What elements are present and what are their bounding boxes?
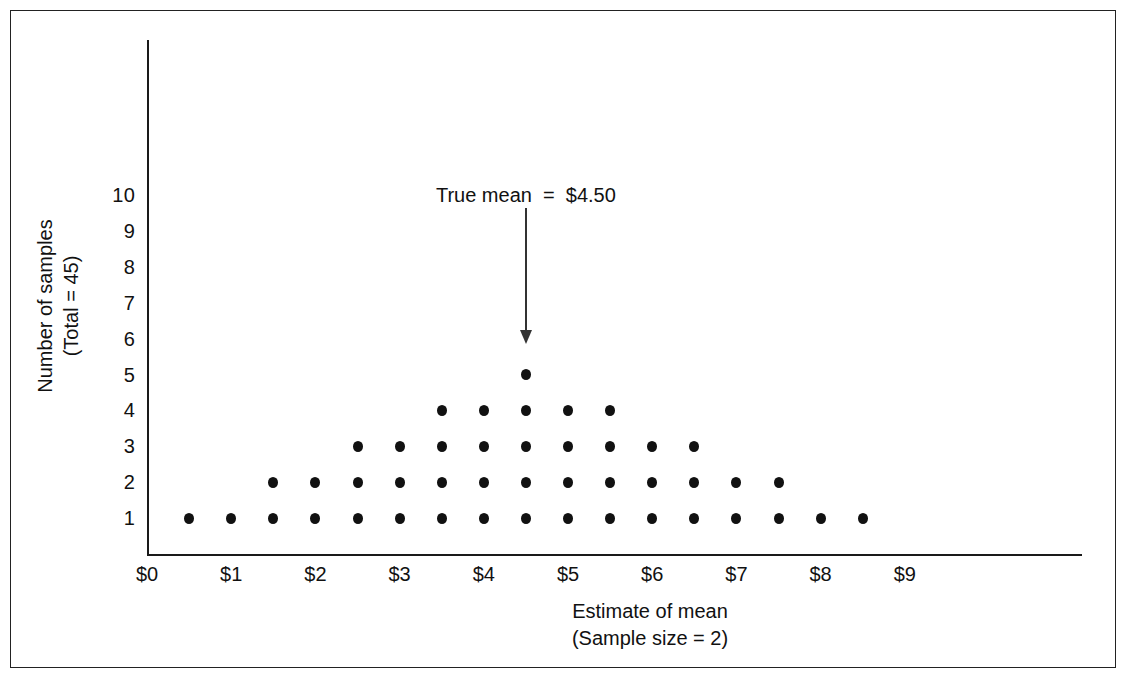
x-tick-label-dollar3: $3 [388, 562, 410, 586]
data-point [353, 513, 363, 524]
data-point [479, 405, 489, 416]
data-point [353, 441, 363, 452]
data-point [268, 513, 278, 524]
data-point [605, 477, 615, 488]
data-point [689, 441, 699, 452]
data-point [774, 477, 784, 488]
data-point [437, 513, 447, 524]
y-tick-label-4: 4 [93, 400, 135, 420]
data-point [184, 513, 194, 524]
y-axis-tick-labels: 12345678910 [90, 0, 135, 698]
data-point [395, 441, 405, 452]
data-point [437, 405, 447, 416]
y-tick-label-9: 9 [93, 221, 135, 241]
true-mean-arrow-shaft [525, 208, 527, 338]
data-point [395, 513, 405, 524]
data-point [437, 441, 447, 452]
data-point [689, 513, 699, 524]
y-tick-label-5: 5 [93, 365, 135, 385]
x-tick-label-dollar6: $6 [641, 562, 663, 586]
data-point [521, 405, 531, 416]
y-tick-label-8: 8 [93, 257, 135, 277]
x-tick-label-dollar8: $8 [809, 562, 831, 586]
y-axis-line [147, 40, 149, 556]
x-axis-title: Estimate of mean(Sample size = 2) [440, 598, 860, 652]
y-tick-label-10: 10 [93, 185, 135, 205]
x-axis-line [147, 554, 1082, 556]
data-point [353, 477, 363, 488]
y-tick-label-1: 1 [93, 508, 135, 528]
data-point [395, 477, 405, 488]
data-point [521, 513, 531, 524]
data-point [479, 513, 489, 524]
x-tick-label-dollar9: $9 [894, 562, 916, 586]
data-point [689, 477, 699, 488]
data-point [310, 513, 320, 524]
data-point [731, 477, 741, 488]
x-tick-label-dollar5: $5 [557, 562, 579, 586]
data-point [437, 477, 447, 488]
data-point [563, 477, 573, 488]
x-tick-label-dollar2: $2 [304, 562, 326, 586]
data-point [521, 441, 531, 452]
data-point [816, 513, 826, 524]
data-point [858, 513, 868, 524]
figure-canvas: 12345678910 $0$1$2$3$4$5$6$7$8$9 True me… [0, 0, 1128, 698]
data-point [605, 513, 615, 524]
data-point [647, 513, 657, 524]
true-mean-arrow-head [520, 330, 532, 344]
data-point [563, 405, 573, 416]
x-tick-label-dollar4: $4 [473, 562, 495, 586]
data-point [479, 477, 489, 488]
true-mean-annotation-label: True mean = $4.50 [436, 183, 616, 207]
data-point [605, 441, 615, 452]
data-point [268, 477, 278, 488]
y-tick-label-7: 7 [93, 293, 135, 313]
x-axis-title-line2: (Sample size = 2) [572, 627, 728, 649]
data-point [310, 477, 320, 488]
y-axis-title: Number of samples(Total = 45) [32, 156, 84, 456]
x-tick-label-dollar1: $1 [220, 562, 242, 586]
data-point [563, 441, 573, 452]
data-point [226, 513, 236, 524]
plot-area: 12345678910 $0$1$2$3$4$5$6$7$8$9 True me… [0, 0, 1128, 698]
data-point [647, 477, 657, 488]
data-point [521, 477, 531, 488]
y-axis-title-line2: (Total = 45) [60, 256, 82, 357]
x-tick-label-dollar7: $7 [725, 562, 747, 586]
data-point [647, 441, 657, 452]
data-point [605, 405, 615, 416]
data-point [521, 369, 531, 380]
data-point [774, 513, 784, 524]
x-axis-tick-labels: $0$1$2$3$4$5$6$7$8$9 [0, 562, 1128, 592]
data-point [731, 513, 741, 524]
y-tick-label-2: 2 [93, 472, 135, 492]
y-axis-title-line1: Number of samples [34, 219, 56, 392]
y-tick-label-6: 6 [93, 329, 135, 349]
data-point [563, 513, 573, 524]
x-axis-title-line1: Estimate of mean [572, 600, 728, 622]
x-tick-label-dollar0: $0 [136, 562, 158, 586]
data-point [479, 441, 489, 452]
y-tick-label-3: 3 [93, 436, 135, 456]
